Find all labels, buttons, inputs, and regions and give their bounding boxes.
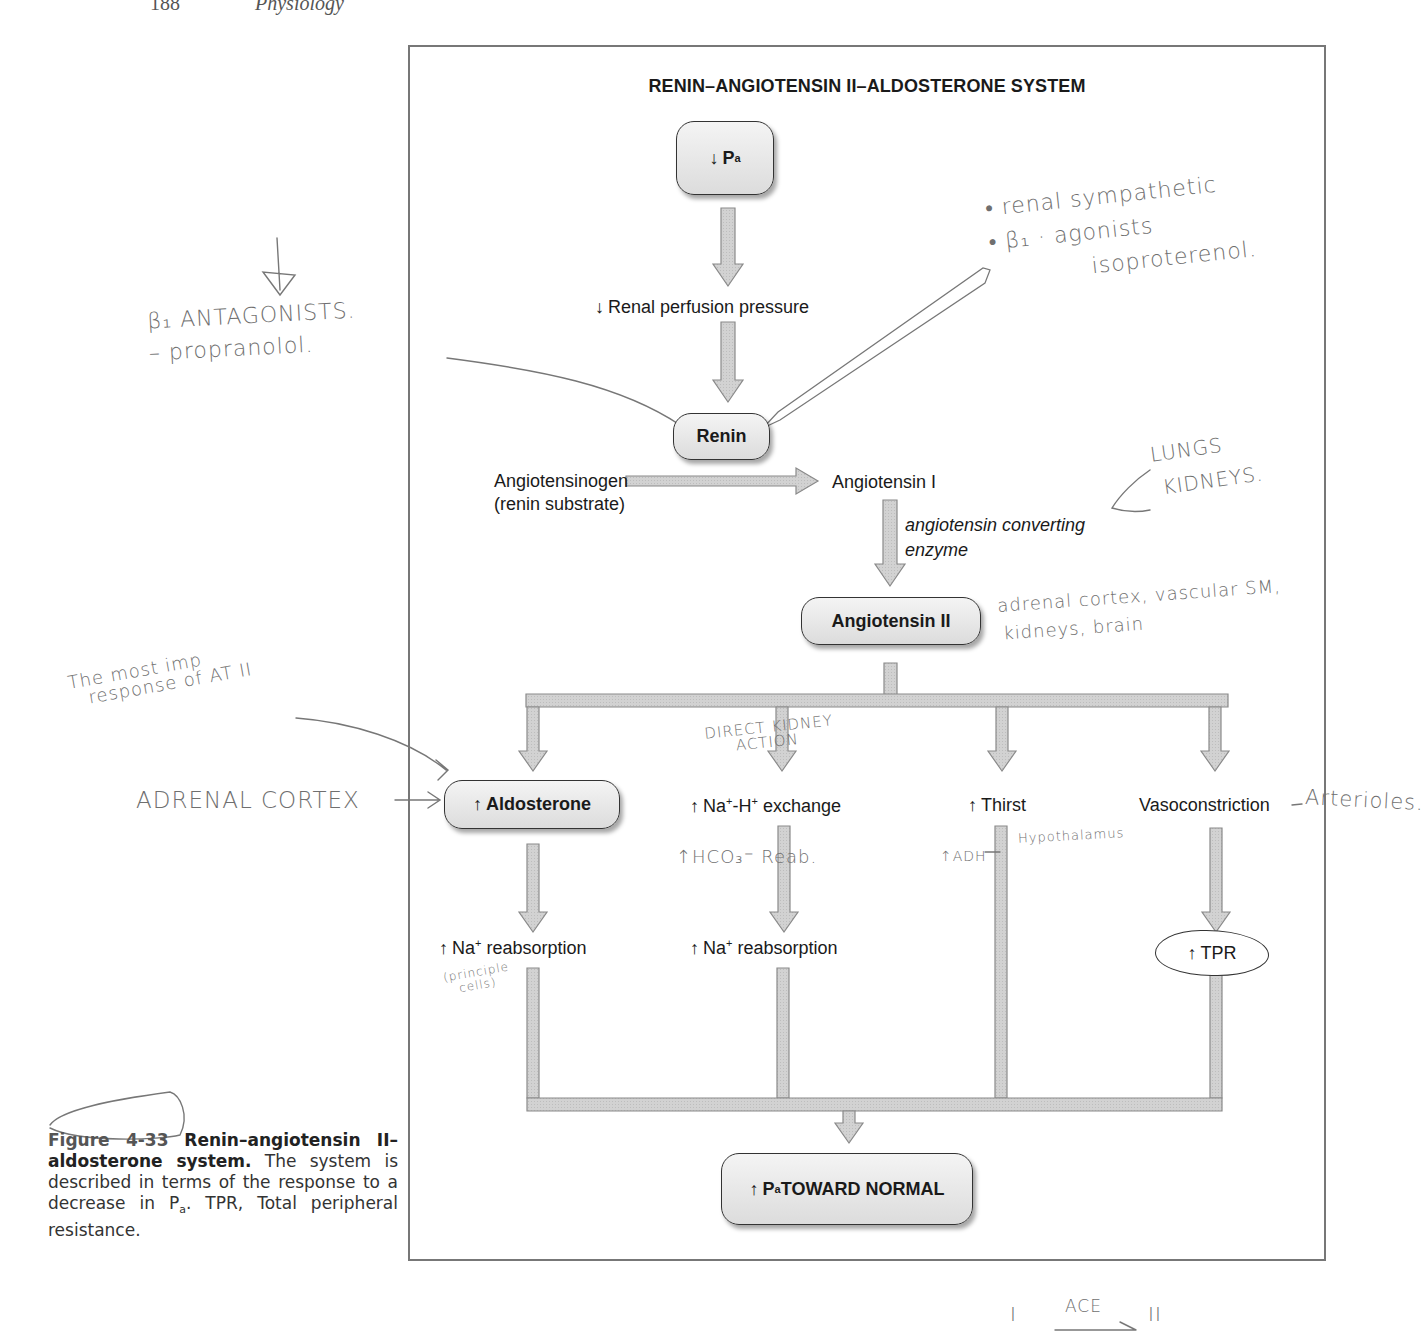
annotation-hco3-reabsorption: ↑HCO₃⁻ Reab. xyxy=(676,846,817,867)
up-arrow-icon: ↑ xyxy=(968,795,977,815)
branch-bar xyxy=(526,694,1228,707)
node-pa-decrease: ↓ Pa xyxy=(676,121,774,195)
up-arrow-icon: ↑ xyxy=(1188,943,1197,964)
arrow-down xyxy=(519,707,547,771)
down-arrow-icon: ↓ xyxy=(595,297,604,317)
branch-stem xyxy=(884,663,897,695)
annotation-ace-conversion: I ACE II xyxy=(1010,1302,1017,1326)
converge-line xyxy=(1210,972,1222,1098)
arrow-down xyxy=(988,707,1016,771)
hand-arrow-most-imp xyxy=(296,718,448,780)
node-angiotensinogen: Angiotensinogen (renin substrate) xyxy=(494,470,628,516)
annotation-beta-antagonists: β₁ ANTAGONISTS. – propranolol. xyxy=(146,295,358,370)
node-vasoconstriction: Vasoconstriction xyxy=(1139,795,1270,816)
hand-ace-arrow xyxy=(1055,1322,1136,1330)
node-renal-perfusion: ↓Renal perfusion pressure xyxy=(595,297,809,318)
node-angiotensin-i: Angiotensin I xyxy=(832,472,936,493)
hand-arrow-agonists xyxy=(763,268,990,428)
up-arrow-icon: ↑ xyxy=(439,938,448,958)
node-thirst: ↑Thirst xyxy=(968,795,1026,816)
annotation-adrenal-cortex: ADRENAL CORTEX xyxy=(136,787,360,813)
node-aldosterone: ↑ Aldosterone xyxy=(444,780,620,829)
node-na-h-exchange: ↑Na+-H+ exchange xyxy=(690,795,841,817)
arrow-down xyxy=(713,322,743,402)
arrow-down xyxy=(875,500,905,586)
down-arrow-icon: ↓ xyxy=(709,148,718,169)
hand-arrow-adrenal xyxy=(395,792,440,808)
node-na-reabsorption-exchange: ↑Na+ reabsorption xyxy=(690,937,838,959)
arrow-down xyxy=(770,826,798,932)
node-pa-toward-normal: ↑ Pa TOWARD NORMAL xyxy=(721,1153,973,1225)
converge-line xyxy=(995,826,1007,1098)
converge-line xyxy=(777,968,789,1098)
up-arrow-icon: ↑ xyxy=(473,794,482,815)
figure-caption: Figure 4-33 Renin–angiotensin II–aldoste… xyxy=(48,1130,398,1241)
hand-bracket-organs xyxy=(1112,470,1150,511)
arrow-down xyxy=(713,208,743,286)
arrow-down xyxy=(835,1111,863,1143)
arrow-down xyxy=(519,844,547,932)
label-ace: angiotensin converting enzyme xyxy=(905,513,1085,563)
up-arrow-icon: ↑ xyxy=(690,938,699,958)
figure-label: Figure 4-33 xyxy=(48,1130,169,1150)
converge-line xyxy=(527,968,539,1098)
arrow-down xyxy=(1202,828,1230,932)
hand-line-antagonists xyxy=(447,358,680,425)
node-renin: Renin xyxy=(673,413,770,460)
arrow-down xyxy=(1201,707,1229,771)
node-angiotensin-ii: Angiotensin II xyxy=(801,597,981,645)
hand-dash-arterioles xyxy=(1292,804,1302,805)
up-arrow-icon: ↑ xyxy=(690,796,699,816)
converge-bar xyxy=(527,1098,1222,1111)
up-arrow-icon: ↑ xyxy=(750,1179,759,1200)
hand-arrow-down xyxy=(263,238,295,295)
annotation-adh: ↑ADH xyxy=(940,848,987,864)
node-na-reabsorption-aldosterone: ↑Na+ reabsorption xyxy=(439,937,587,959)
arrow-right xyxy=(626,468,818,494)
